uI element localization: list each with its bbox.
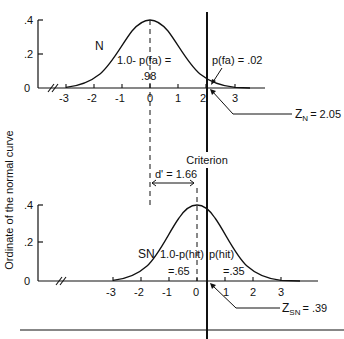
bottom-xtick: 3 xyxy=(278,286,284,298)
bottom-xtick: -2 xyxy=(134,286,144,298)
sdt-diagram: Ordinate of the normal curve .4 .2 0 -3 … xyxy=(0,0,344,339)
phit-label: p(hit) xyxy=(209,248,234,260)
bottom-xtick: -1 xyxy=(162,286,172,298)
bottom-ytick-0: 0 xyxy=(24,275,30,287)
one-minus-phit-value: =.65 xyxy=(168,265,190,277)
pfa-label: p(fa) = .02 xyxy=(212,54,262,66)
bottom-panel: .4 .2 0 -3 -2 -1 0 1 2 3 SN 1.0-p(hit) =… xyxy=(24,199,327,317)
sn-curve-label: SN xyxy=(138,247,155,261)
top-ytick-0: 0 xyxy=(24,82,30,94)
one-minus-phit-label: 1.0-p(hit) xyxy=(160,248,204,260)
y-axis-label: Ordinate of the normal curve xyxy=(3,130,15,269)
top-xtick: -3 xyxy=(59,92,69,104)
one-minus-pfa-label: 1.0- p(fa) = xyxy=(117,54,171,66)
zn-label: ZN= 2.05 xyxy=(295,107,341,123)
one-minus-pfa-value: .98 xyxy=(141,70,156,82)
top-xtick: -1 xyxy=(115,92,125,104)
top-ytick-02: .2 xyxy=(24,48,33,60)
n-curve-label: N xyxy=(95,39,104,53)
bottom-ytick-04: .4 xyxy=(24,199,33,211)
criterion-label: Criterion xyxy=(186,154,228,166)
top-xtick: 2 xyxy=(200,92,206,104)
top-xtick: 1 xyxy=(175,92,181,104)
phit-value: =.35 xyxy=(223,265,245,277)
zsn-label: ZSN= .39 xyxy=(282,301,327,317)
bottom-ytick-02: .2 xyxy=(24,236,33,248)
bottom-xtick: 2 xyxy=(250,286,256,298)
top-xtick: -2 xyxy=(87,92,97,104)
top-xtick: 3 xyxy=(232,92,238,104)
bottom-xtick: 0 xyxy=(193,286,199,298)
bottom-xtick: -3 xyxy=(106,286,116,298)
top-ytick-04: .4 xyxy=(24,14,33,26)
d-prime-label: d' = 1.66 xyxy=(155,168,197,180)
